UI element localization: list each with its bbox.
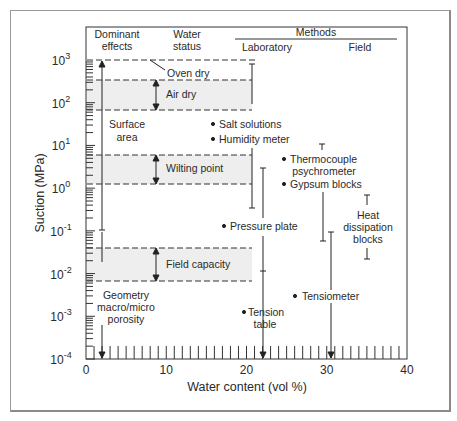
y-tick-label: 100 [52, 179, 70, 196]
label-salt-solutions: Salt solutions [219, 118, 281, 130]
label-thermocouple: Thermocouple [290, 153, 357, 165]
label-dissipation: dissipation [343, 221, 393, 233]
x-tick-label: 40 [400, 363, 414, 377]
label-heat: Heat [357, 209, 379, 221]
y-tick-label: 101 [52, 136, 70, 153]
x-tick-label: 20 [240, 363, 254, 377]
x-tick-label: 0 [83, 363, 90, 377]
header-status: status [173, 40, 201, 52]
header-effects: effects [102, 40, 133, 52]
label-table: table [254, 318, 277, 330]
label-blocks: blocks [353, 233, 383, 245]
header-field: Field [349, 41, 372, 53]
label-oven-dry: Oven dry [167, 67, 210, 79]
x-tick-label: 10 [160, 363, 174, 377]
y-tick-labels: 10310210110010-110-210-310-4 [50, 51, 71, 367]
x-tick-label: 30 [320, 363, 334, 377]
label-geometry: Geometry [103, 289, 150, 301]
label-tension: Tension [248, 306, 284, 318]
header-laboratory: Laboratory [242, 41, 293, 53]
label-wilting-point: Wilting point [166, 162, 223, 174]
label-porosity: porosity [108, 313, 146, 325]
label-air-dry: Air dry [166, 88, 197, 100]
label-tensiometer: Tensiometer [302, 290, 360, 302]
label-field-capacity: Field capacity [166, 258, 231, 270]
header-dominant: Dominant [95, 28, 140, 40]
y-tick-label: 10-4 [50, 350, 71, 367]
x-axis-ticks [94, 346, 399, 359]
y-tick-label: 10-1 [50, 222, 71, 239]
x-axis-title: Water content (vol %) [187, 380, 307, 394]
y-tick-label: 102 [52, 94, 70, 111]
suction-chart: Dominant effects Water status Methods La… [0, 0, 457, 421]
label-surface: Surface [109, 118, 145, 130]
y-tick-label: 103 [52, 51, 70, 68]
label-humidity-meter: Humidity meter [219, 133, 290, 145]
label-psychrometer: psychrometer [292, 165, 356, 177]
header-methods: Methods [296, 26, 336, 38]
label-macro-micro: macro/micro [97, 301, 155, 313]
header-water: Water [173, 28, 201, 40]
y-tick-label: 10-3 [50, 307, 71, 324]
label-gypsum-blocks: Gypsum blocks [290, 178, 362, 190]
label-pressure-plate: Pressure plate [230, 220, 298, 232]
y-tick-label: 10-2 [50, 265, 71, 282]
x-tick-labels: 010203040 [83, 363, 414, 377]
y-axis-title: Suction (MPa) [33, 153, 47, 232]
label-area: area [116, 131, 137, 143]
